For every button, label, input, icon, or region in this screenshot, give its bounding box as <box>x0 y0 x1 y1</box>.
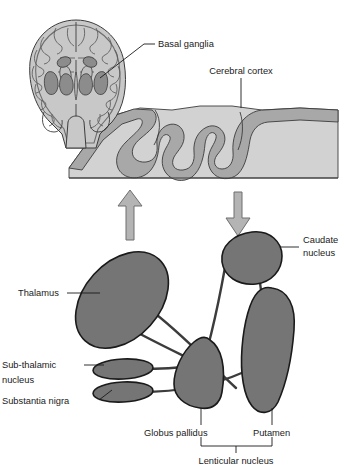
label-subthalamic-nucleus-line1: Sub-thalamic <box>2 360 57 370</box>
label-thalamus: Thalamus <box>18 288 59 298</box>
thalamus-shape <box>57 234 187 367</box>
subthalamic-nucleus-shape <box>93 357 154 380</box>
label-putamen: Putamen <box>253 428 290 438</box>
label-cerebral-cortex: Cerebral cortex <box>209 66 273 76</box>
label-subthalamic-nucleus-line2: nucleus <box>2 375 34 385</box>
label-substantia-nigra: Substantia nigra <box>2 396 70 406</box>
putamen-shape <box>241 287 294 412</box>
label-lenticular-nucleus: Lenticular nucleus <box>199 456 274 466</box>
down-arrow-icon <box>226 192 250 236</box>
label-globus-pallidus: Globus pallidus <box>144 428 208 438</box>
section-putamen-right <box>94 72 108 95</box>
substantia-nigra-shape <box>93 380 154 403</box>
basal-ganglia-figure: Basal ganglia Cerebral cortex Caudate nu… <box>0 0 344 469</box>
lenticular-nucleus-bracket <box>201 437 272 453</box>
section-globus-pallidus-right <box>79 74 93 95</box>
section-putamen-left <box>44 72 58 95</box>
label-caudate-nucleus-line2: nucleus <box>303 248 335 258</box>
basal-ganglia-nuclei-group <box>57 232 294 413</box>
brain-third-ventricle <box>75 72 78 100</box>
section-globus-pallidus-left <box>60 74 74 95</box>
label-basal-ganglia: Basal ganglia <box>158 39 215 49</box>
label-caudate-nucleus-line1: Caudate <box>303 235 338 245</box>
caudate-nucleus-shape <box>222 232 282 284</box>
brainstem-stalk <box>66 116 86 148</box>
up-arrow-icon <box>118 190 142 240</box>
globus-pallidus-shape <box>174 338 224 409</box>
